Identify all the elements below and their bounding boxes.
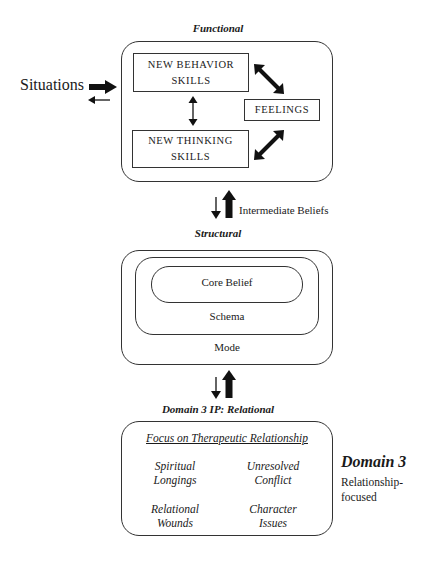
arrow-right-thick-icon <box>89 80 117 94</box>
arrow-up-thick-icon <box>222 190 236 218</box>
arrow-down-thin-icon-2 <box>211 377 221 399</box>
double-arrow-diagonal-upper-icon <box>254 64 284 94</box>
functional-title: Functional <box>0 22 436 34</box>
relational-wounds-item: Relational Wounds <box>135 502 215 530</box>
feelings-box: FEELINGS <box>244 99 320 121</box>
mode-label: Mode <box>121 341 333 353</box>
schema-label: Schema <box>135 310 319 322</box>
unresolved-conflict-item: Unresolved Conflict <box>233 459 313 487</box>
situations-label: Situations <box>20 76 84 94</box>
arrow-left-thin-icon <box>88 95 110 105</box>
domain-3-subtitle: Relationship- focused <box>341 475 403 505</box>
new-behavior-skills-box: NEW BEHAVIOR SKILLS <box>133 53 249 92</box>
spiritual-longings-item: Spiritual Longings <box>135 459 215 487</box>
domain-3-title: Domain 3 <box>341 453 406 471</box>
arrow-up-thick-icon-2 <box>222 370 236 398</box>
character-issues-item: Character Issues <box>233 502 313 530</box>
relational-title: Domain 3 IP: Relational <box>0 403 436 415</box>
new-thinking-line1: NEW THINKING <box>148 133 233 149</box>
new-behavior-line1: NEW BEHAVIOR <box>148 57 234 73</box>
double-arrow-diagonal-lower-icon <box>254 130 284 160</box>
new-behavior-line2: SKILLS <box>171 73 210 89</box>
arrow-down-thin-icon <box>211 197 221 219</box>
structural-title: Structural <box>0 227 436 239</box>
core-belief-label: Core Belief <box>151 276 303 288</box>
intermediate-beliefs-label: Intermediate Beliefs <box>239 204 329 216</box>
therapeutic-relationship-heading: Focus on Therapeutic Relationship <box>121 432 333 444</box>
new-thinking-skills-box: NEW THINKING SKILLS <box>132 130 249 168</box>
double-arrow-vertical-icon <box>187 96 199 126</box>
new-thinking-line2: SKILLS <box>171 149 210 165</box>
